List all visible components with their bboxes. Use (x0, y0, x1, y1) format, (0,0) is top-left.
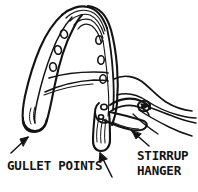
gullet-points-label: GULLET POINTS (7, 158, 102, 173)
crossbar-straps (44, 72, 108, 95)
stirrup-hanger-bar (95, 99, 150, 131)
figure-container: GULLET POINTS STIRRUP HANGER (0, 0, 198, 192)
stirrup-hanger-label: STIRRUP HANGER (137, 148, 188, 178)
arrow-to-gullet-point-left (11, 137, 28, 153)
stirrup-hanger-label-line2: HANGER (137, 163, 188, 178)
stirrup-hanger-label-line1: STIRRUP (137, 148, 188, 163)
arrow-to-stirrup-hanger (132, 131, 149, 146)
